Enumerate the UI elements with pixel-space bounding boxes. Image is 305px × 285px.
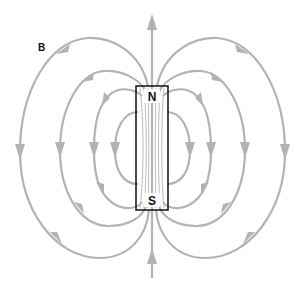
left-loop-1-arrow-mid-icon	[15, 144, 25, 160]
left-loop-2-arrow-mid-icon	[55, 142, 65, 158]
right-loop-3-arrow-mid-icon	[206, 142, 216, 158]
left-field-loops	[15, 38, 149, 258]
right-loop-3	[163, 89, 211, 208]
north-pole-label: N	[148, 90, 157, 104]
arrow-up-bottom-icon	[147, 248, 157, 264]
right-field-loops	[156, 38, 290, 258]
left-loop-3-arrow-bottom-icon	[96, 182, 104, 194]
right-loop-1-arrow-mid-icon	[280, 144, 290, 160]
south-pole-label: S	[148, 194, 156, 208]
left-loop-3-arrow-mid-icon	[89, 142, 99, 158]
right-loop-2-arrow-mid-icon	[240, 142, 250, 158]
left-loop-1	[20, 38, 149, 258]
left-loop-4-arrow-mid-icon	[110, 142, 120, 158]
bar-magnet-field-diagram: N S B	[0, 0, 305, 285]
right-loop-4	[167, 112, 190, 184]
left-loop-2	[60, 71, 146, 226]
right-loop-3-arrow-bottom-icon	[201, 182, 209, 194]
right-loop-1	[156, 38, 285, 258]
left-loop-4	[115, 112, 138, 184]
left-loop-3	[94, 89, 142, 208]
field-label-b: B	[38, 42, 45, 53]
arrow-up-top-icon	[147, 14, 157, 30]
right-loop-2	[159, 71, 245, 226]
right-loop-4-arrow-mid-icon	[185, 142, 195, 158]
